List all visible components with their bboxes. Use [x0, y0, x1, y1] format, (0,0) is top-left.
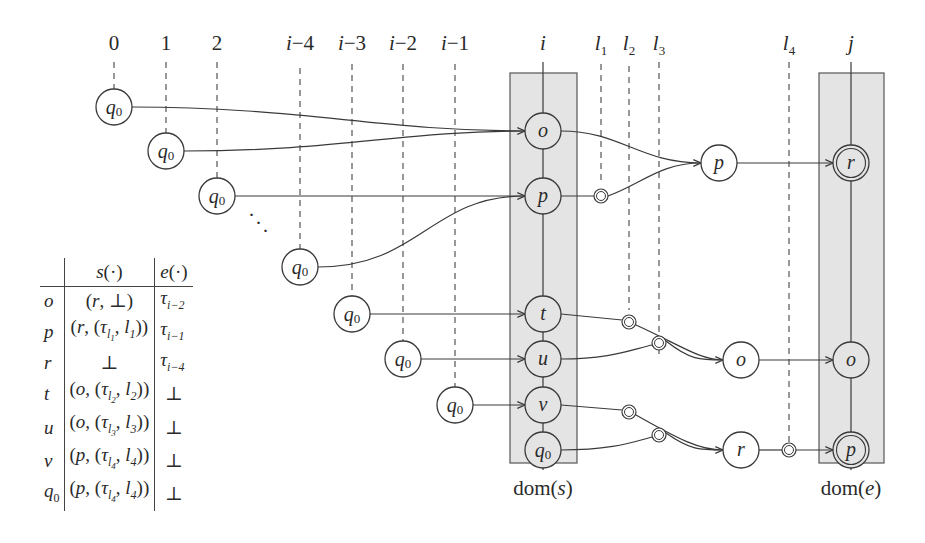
svg-text:r: r	[847, 151, 855, 173]
state-node-q0-dom-s: q0	[525, 432, 561, 468]
accepting-node-r: r	[833, 145, 869, 181]
transition-markers	[594, 189, 796, 457]
table-header-state	[40, 258, 64, 287]
dom-e-caption: dom(e)	[821, 476, 882, 500]
state-node-o-mid: o	[723, 342, 759, 378]
svg-text:u: u	[538, 347, 548, 369]
state-node-v: v	[525, 387, 561, 423]
column-label-l4: l4	[783, 31, 796, 58]
state-node-q0-col0: q0	[96, 89, 132, 125]
svg-text:p: p	[712, 151, 724, 174]
state-node-q0-col2: q0	[199, 178, 235, 214]
column-label-i-3: i−3	[338, 31, 366, 55]
state-node-o: o	[525, 113, 561, 149]
svg-text:p: p	[536, 184, 548, 207]
column-label-i: i	[540, 31, 546, 55]
state-node-q0-col-i-2: q0	[385, 341, 421, 377]
column-label-0: 0	[109, 31, 120, 55]
ellipsis: ·	[248, 203, 255, 227]
time-lines	[114, 62, 789, 443]
column-label-l2: l2	[623, 31, 635, 58]
svg-text:·: ·	[255, 211, 262, 235]
table-row: q0 (p, (τl4, l4)) ⊥	[40, 477, 193, 510]
table-row: r ⊥ τi−4	[40, 349, 193, 378]
svg-text:o: o	[846, 348, 856, 370]
state-node-t: t	[525, 296, 561, 332]
state-node-p-mid: p	[701, 145, 737, 181]
state-node-u: u	[525, 341, 561, 377]
column-label-1: 1	[161, 31, 172, 55]
table-row: t (o, (τl2, l2)) ⊥	[40, 378, 193, 411]
column-label-l1: l1	[595, 31, 607, 58]
state-node-q0-col-i-3: q0	[334, 296, 370, 332]
column-label-j: j	[845, 31, 854, 55]
svg-text:o: o	[538, 119, 548, 141]
state-node-q0-col-i-1: q0	[437, 387, 473, 423]
run-lines	[543, 62, 851, 470]
column-label-2: 2	[212, 31, 223, 55]
svg-text:t: t	[540, 302, 546, 324]
state-node-r-mid: r	[723, 432, 759, 468]
column-labels: 0 1 2 i−4 i−3 i−2 i−1 i l1 l2 l3 l4 j	[109, 31, 854, 58]
table-row: u (o, (τl3, l3)) ⊥	[40, 411, 193, 444]
state-node-o-dom-e: o	[833, 342, 869, 378]
svg-text:·: ·	[262, 219, 269, 243]
state-node-q0-col-i-4: q0	[282, 249, 318, 285]
svg-text:v: v	[539, 393, 548, 415]
column-label-i-4: i−4	[286, 31, 315, 55]
table-header-e: e(·)	[155, 258, 193, 287]
table-row: o (r, ⊥) τi−2	[40, 287, 193, 316]
table-header-s: s(·)	[64, 258, 155, 287]
state-mapping-table: s(·) e(·) o (r, ⊥) τi−2 p (r, (τl1, l1))…	[40, 258, 193, 511]
accepting-node-p: p	[833, 432, 869, 468]
dom-s-caption: dom(s)	[513, 476, 573, 500]
state-node-p: p	[525, 178, 561, 214]
svg-text:o: o	[736, 348, 746, 370]
svg-text:p: p	[844, 438, 856, 461]
table-row: v (p, (τl4, l4)) ⊥	[40, 444, 193, 477]
column-label-i-1: i−1	[441, 31, 469, 55]
middle-nodes: p o r	[701, 145, 759, 468]
state-node-q0-col1: q0	[148, 133, 184, 169]
svg-text:r: r	[737, 438, 745, 460]
table-row: p (r, (τl1, l1)) τi−1	[40, 316, 193, 349]
column-label-i-2: i−2	[389, 31, 417, 55]
column-label-l3: l3	[653, 31, 665, 58]
